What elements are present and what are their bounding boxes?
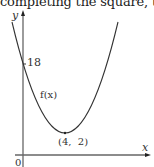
vertex-label: (4, 2) xyxy=(58,136,88,147)
x-axis-label: x xyxy=(142,141,149,154)
y-axis-arrow-icon xyxy=(21,10,25,16)
parabola-graph: y x 18 f(x) (4, 2) 0 xyxy=(0,0,154,167)
vertex-point xyxy=(64,132,66,134)
parabola-curve xyxy=(12,22,118,133)
y-axis-label: y xyxy=(11,9,19,22)
curve-label: f(x) xyxy=(40,89,57,100)
origin-label: 0 xyxy=(15,157,21,167)
y-intercept-label: 18 xyxy=(27,56,41,69)
